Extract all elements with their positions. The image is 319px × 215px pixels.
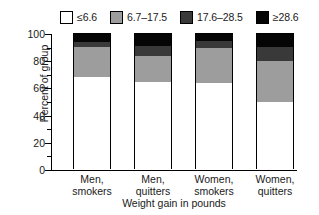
bar-segment: [256, 102, 294, 169]
legend-swatch-icon-3: [180, 11, 193, 24]
legend-swatch-icon-1: [60, 11, 73, 24]
legend-swatch-icon-4: [256, 11, 269, 24]
bar-segment: [134, 82, 172, 169]
y-axis-tick-major: [45, 34, 51, 35]
bar-segment: [256, 61, 294, 102]
bar-women-smokers: [195, 33, 233, 169]
legend-entry-1: ≤6.6: [60, 11, 97, 24]
bar-segment: [73, 77, 111, 169]
legend-entry-2: 6.7–17.5: [110, 11, 167, 24]
y-axis-tick-label: 40: [33, 111, 45, 121]
bar-segment: [73, 33, 111, 42]
bar-segment: [195, 41, 233, 48]
legend-label-1: ≤6.6: [77, 12, 97, 23]
legend-label-3: 17.6–28.5: [197, 12, 243, 23]
legend-label-4: ≥28.6: [273, 12, 299, 23]
bar-segment: [195, 83, 233, 169]
bar-men-smokers: [73, 33, 111, 169]
y-axis-tick-major: [45, 143, 51, 144]
bar-segment: [134, 33, 172, 46]
x-label-line-1: Women,: [238, 174, 312, 186]
bar-men-quitters: [134, 33, 172, 169]
x-label-line-2: quitters: [238, 186, 312, 198]
y-axis-tick-minor: [47, 48, 51, 49]
y-axis-tick-label: 100: [27, 29, 45, 39]
stacked-bar-chart-figure: ≤6.6 6.7–17.5 17.6–28.5 ≥28.6 Percent of…: [0, 0, 319, 215]
bar-segment: [134, 56, 172, 82]
y-axis-line: [51, 34, 52, 171]
bar-segment: [256, 47, 294, 61]
legend-entry-3: 17.6–28.5: [180, 11, 243, 24]
bar-segment: [195, 48, 233, 83]
bar-segment: [134, 46, 172, 56]
y-axis-tick-major: [45, 61, 51, 62]
legend-swatch-icon-2: [110, 11, 123, 24]
y-axis-tick-minor: [47, 156, 51, 157]
y-axis-tick-labels: 020406080100: [14, 34, 45, 171]
bar-segment: [195, 33, 233, 41]
y-axis-tick-label: 20: [33, 138, 45, 148]
y-axis-tick-minor: [47, 102, 51, 103]
y-axis-tick-label: 80: [33, 56, 45, 66]
chart-legend: ≤6.6 6.7–17.5 17.6–28.5 ≥28.6: [60, 9, 312, 26]
y-axis-tick-major: [45, 116, 51, 117]
y-axis-tick-minor: [47, 129, 51, 130]
y-axis-tick-label: 60: [33, 83, 45, 93]
legend-entry-4: ≥28.6: [256, 11, 299, 24]
y-axis-tick-major: [45, 88, 51, 89]
bar-segment: [73, 47, 111, 77]
plot-area: [51, 34, 296, 170]
x-axis-line: [51, 170, 297, 171]
x-axis-category-label: Women,quitters: [238, 174, 312, 197]
y-axis-tick-minor: [47, 75, 51, 76]
bar-women-quitters: [256, 33, 294, 169]
bar-segment: [256, 33, 294, 47]
y-axis-tick-major: [45, 170, 51, 171]
x-axis-title: Weight gain in pounds: [51, 198, 297, 209]
legend-label-2: 6.7–17.5: [127, 12, 167, 23]
